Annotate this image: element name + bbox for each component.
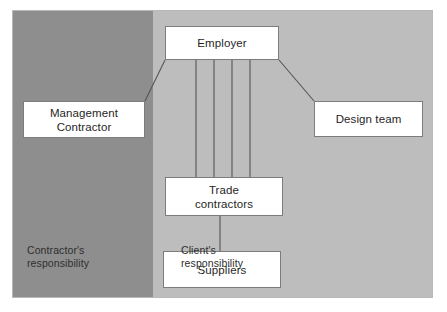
diagram-frame: Employer Management Contractor Design te… xyxy=(12,10,433,298)
node-employer[interactable]: Employer xyxy=(165,26,279,60)
node-trade-contractors-label: Trade contractors xyxy=(195,183,253,211)
contractor-responsibility-label: Contractor's responsibility xyxy=(27,244,89,270)
node-employer-label: Employer xyxy=(197,36,246,50)
node-trade-contractors[interactable]: Trade contractors xyxy=(165,177,283,216)
node-design-team-label: Design team xyxy=(336,112,402,126)
diagram-canvas: Employer Management Contractor Design te… xyxy=(0,0,447,312)
node-management-contractor-label: Management Contractor xyxy=(50,106,118,134)
node-management-contractor[interactable]: Management Contractor xyxy=(23,101,145,138)
node-design-team[interactable]: Design team xyxy=(314,101,423,137)
client-responsibility-label: Client's responsibility xyxy=(181,244,243,270)
